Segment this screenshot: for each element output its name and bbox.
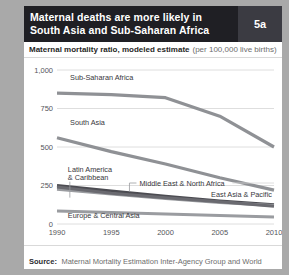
figure-header: Maternal deaths are more likely in South… [24, 6, 282, 42]
source-text: Maternal Mortality Estimation Inter-Agen… [29, 257, 262, 269]
chart-subtitle-units: (per 100,000 live births) [193, 45, 277, 54]
series-label: East Asia & Pacific [211, 190, 272, 199]
y-axis-tick-label: 1,000 [34, 66, 53, 75]
source-note: Source: Maternal Mortality Estimation In… [24, 245, 282, 269]
x-axis-tick-label: 2005 [211, 228, 228, 237]
x-axis-tick-label: 1995 [103, 228, 120, 237]
series-label: Sub-Saharan Africa [70, 73, 134, 82]
figure-root: Maternal deaths are more likely in South… [0, 0, 289, 275]
figure-number-badge: 5a [238, 6, 282, 42]
y-axis-tick-label: 250 [40, 181, 53, 190]
chart-subtitle: Maternal mortality ratio, modeled estima… [24, 42, 282, 58]
series-label: South Asia [70, 118, 106, 127]
source-label: Source: [29, 257, 57, 266]
series-label: & Caribbean [68, 173, 109, 182]
figure-number-text: 5a [254, 18, 266, 30]
x-axis-tick-label: 1990 [49, 228, 66, 237]
series-label: Europe & Central Asia [68, 211, 141, 220]
page-title: Maternal deaths are more likely in South… [24, 11, 209, 37]
series-label: Middle East & North Africa [139, 179, 225, 188]
figure-card: Maternal deaths are more likely in South… [24, 6, 282, 269]
x-axis-tick-label: 2000 [157, 228, 174, 237]
y-axis-tick-label: 500 [40, 143, 53, 152]
chart-plot-area: 02505007501,00019901995200020052010Sub-S… [24, 58, 282, 244]
chart-subtitle-strong: Maternal mortality ratio, modeled estima… [29, 45, 190, 54]
y-axis-tick-label: 750 [40, 104, 53, 113]
x-axis-tick-label: 2010 [266, 228, 282, 237]
line-chart: 02505007501,00019901995200020052010Sub-S… [24, 58, 282, 244]
